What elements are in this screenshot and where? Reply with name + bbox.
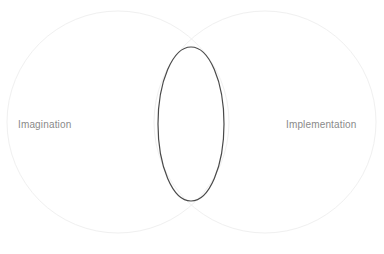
set-label-imagination: Imagination: [18, 119, 71, 131]
intersection-ellipse[interactable]: [158, 47, 224, 201]
set-label-implementation: Implementation: [286, 119, 356, 131]
venn-diagram: Imagination Implementation: [0, 0, 384, 254]
